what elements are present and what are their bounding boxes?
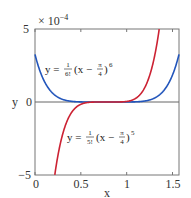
x-axis-label: x xyxy=(104,186,110,198)
y-scale-label: × 10−4 xyxy=(38,13,68,28)
svg-text:): ) xyxy=(126,131,130,144)
chart: × 10−4 5 0 −5 0 0.5 1 1.5 x y y = 1 6! (… xyxy=(0,0,191,198)
svg-text:π: π xyxy=(120,129,124,137)
svg-text:6!: 6! xyxy=(65,70,71,78)
series-sixth-power xyxy=(35,54,179,102)
svg-text:): ) xyxy=(104,63,108,76)
y-tick-top: 5 xyxy=(23,22,29,36)
svg-text:5!: 5! xyxy=(87,138,93,146)
svg-text:(x −: (x − xyxy=(74,63,92,76)
svg-text:1: 1 xyxy=(88,129,92,137)
annotation-fifth-power: y = 1 5! (x − π 4 ) 5 xyxy=(67,129,135,146)
svg-text:(x −: (x − xyxy=(96,131,114,144)
y-axis-label: y xyxy=(12,95,18,109)
svg-text:y =: y = xyxy=(67,131,81,143)
x-tick-1.5: 1.5 xyxy=(166,177,181,191)
svg-text:5: 5 xyxy=(131,129,135,137)
x-tick-0.5: 0.5 xyxy=(74,177,89,191)
y-tick-bottom: −5 xyxy=(18,168,31,182)
x-tick-0: 0 xyxy=(33,177,39,191)
svg-text:1: 1 xyxy=(66,61,70,69)
annotation-sixth-power: y = 1 6! (x − π 4 ) 6 xyxy=(45,61,113,78)
svg-text:π: π xyxy=(98,61,102,69)
svg-text:y =: y = xyxy=(45,63,59,75)
svg-text:4: 4 xyxy=(120,138,124,146)
x-tick-1: 1 xyxy=(124,177,130,191)
svg-text:6: 6 xyxy=(109,61,113,69)
y-tick-zero: 0 xyxy=(26,95,32,109)
svg-text:4: 4 xyxy=(98,70,102,78)
